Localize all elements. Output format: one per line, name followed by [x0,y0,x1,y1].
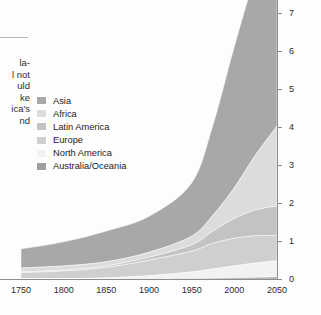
y-tick-mark [278,127,282,128]
legend-label: Latin America [53,122,109,132]
legend-label: Australia/Oceania [53,161,126,171]
legend-label: Africa [53,109,77,119]
legend-swatch-icon [36,96,47,105]
legend-item: North America [36,148,126,159]
y-tick-mark [278,279,282,280]
y-tick-label: 3 [289,160,294,170]
y-axis-line [277,0,278,280]
y-tick-label: 0 [289,274,294,284]
chart-legend: AsiaAfricaLatin AmericaEuropeNorth Ameri… [36,95,126,172]
chart-page: la- l not uld ke ica's nd 17501800185019… [0,0,321,315]
x-tick-label: 1950 [182,285,202,295]
legend-label: Europe [53,135,83,145]
legend-item: Europe [36,135,126,146]
y-tick-mark [278,203,282,204]
legend-item: Australia/Oceania [36,161,126,172]
x-tick-label: 1850 [96,285,116,295]
y-tick-label: 7 [289,8,294,18]
x-tick-label: 1750 [11,285,31,295]
y-tick-mark [278,241,282,242]
y-tick-label: 2 [289,198,294,208]
y-tick-mark [278,89,282,90]
y-tick-mark [278,51,282,52]
legend-swatch-icon [36,136,47,145]
legend-item: Latin America [36,121,126,132]
y-tick-label: 6 [289,46,294,56]
legend-item: Asia [36,95,126,106]
x-tick-label: 1900 [139,285,159,295]
x-tick-label: 2050 [267,285,287,295]
y-tick-mark [278,13,282,14]
x-tick-label: 1800 [54,285,74,295]
legend-swatch-icon [36,149,47,158]
legend-swatch-icon [36,122,47,131]
y-tick-label: 4 [289,122,294,132]
y-tick-mark [278,165,282,166]
y-tick-label: 1 [289,236,294,246]
legend-label: North America [53,148,112,158]
legend-item: Africa [36,108,126,119]
legend-swatch-icon [36,109,47,118]
x-axis-line [0,279,278,280]
y-tick-label: 5 [289,84,294,94]
legend-label: Asia [53,96,71,106]
legend-swatch-icon [36,162,47,171]
x-tick-label: 2000 [224,285,244,295]
